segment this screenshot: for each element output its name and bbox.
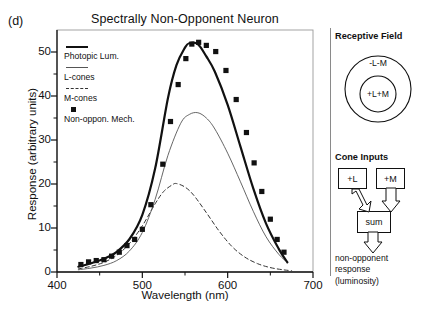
legend-item-l-cones: L-cones bbox=[64, 63, 168, 83]
y-tick-label: 30 bbox=[28, 133, 51, 145]
y-tick-label: 20 bbox=[28, 177, 51, 189]
output-line-2: response bbox=[335, 264, 426, 275]
legend-item-m-cones: M-cones bbox=[64, 84, 168, 104]
receptive-field-diagram: -L-M +L+M bbox=[330, 45, 426, 135]
receptive-field-title: Receptive Field bbox=[335, 31, 402, 41]
output-line-3: (luminosity) bbox=[335, 276, 426, 287]
x-tick-label: 600 bbox=[213, 279, 243, 291]
legend-key-filled-square-marker-icon bbox=[64, 105, 168, 114]
legend-item-non-opponent-mech: Non-oppon. Mech. bbox=[64, 105, 168, 125]
legend-label: L-cones bbox=[64, 72, 168, 83]
x-tick-label: 400 bbox=[42, 279, 72, 291]
legend-key-dashed-line-icon bbox=[64, 84, 168, 93]
plot-area: Wavelength (nm) Response (arbitrary unit… bbox=[0, 0, 330, 315]
arrow-l-to-sum-icon bbox=[352, 189, 371, 212]
arrow-m-to-sum-icon bbox=[382, 188, 400, 212]
cone-inputs-title: Cone Inputs bbox=[335, 152, 388, 162]
y-tick-label: 10 bbox=[28, 221, 51, 233]
x-tick-label: 500 bbox=[127, 279, 157, 291]
chart-legend: Photopic Lum. L-cones M-cones Non-oppon.… bbox=[64, 42, 168, 126]
arrow-sum-to-output-icon bbox=[364, 232, 382, 253]
side-diagram-column: Receptive Field -L-M +L+M Cone Inputs +L… bbox=[330, 0, 426, 315]
legend-key-thin-solid-line-icon bbox=[64, 63, 168, 72]
x-tick-label: 700 bbox=[298, 279, 328, 291]
y-tick-label: 40 bbox=[28, 89, 51, 101]
output-line-1: non-opponent bbox=[335, 253, 426, 264]
y-tick-label: 0 bbox=[28, 265, 51, 277]
output-description: non-opponent response (luminosity) bbox=[335, 253, 426, 287]
y-tick-label: 50 bbox=[28, 45, 51, 57]
receptive-field-surround-label: -L-M bbox=[369, 58, 387, 68]
legend-label: Non-oppon. Mech. bbox=[64, 114, 168, 125]
figure-panel: (d) Spectrally Non-Opponent Neuron Wavel… bbox=[0, 0, 426, 315]
x-axis-title: Wavelength (nm) bbox=[57, 289, 313, 301]
legend-label: M-cones bbox=[64, 93, 168, 104]
legend-label: Photopic Lum. bbox=[64, 51, 168, 62]
legend-key-thick-solid-line-icon bbox=[64, 42, 168, 51]
legend-item-photopic: Photopic Lum. bbox=[64, 42, 168, 62]
cone-inputs-arrows bbox=[330, 186, 426, 256]
receptive-field-center-label: +L+M bbox=[367, 89, 389, 99]
